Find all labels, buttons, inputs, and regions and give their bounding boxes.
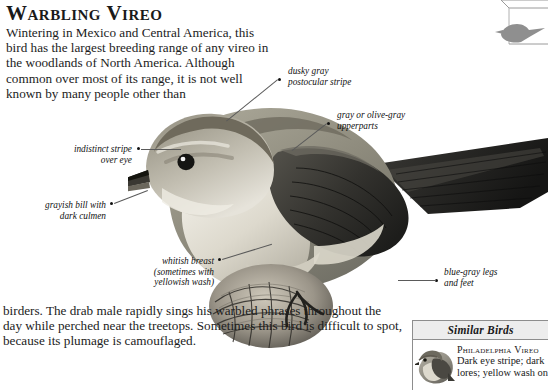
callout-eye-stripe: indistinct stripe over eye — [36, 144, 132, 165]
callout-bill: grayish bill with dark culmen — [10, 200, 106, 221]
outro-paragraph-text: birders. The drab male rapidly sings his… — [3, 303, 403, 349]
intro-paragraph-text: Wintering in Mexico and Central America,… — [6, 25, 274, 101]
philadelphia-vireo-thumbnail — [415, 343, 455, 389]
page-title: Warbling Vireo — [6, 2, 162, 24]
philadelphia-vireo-description: Dark eye stripe; dark lores; yellow wash… — [457, 355, 548, 378]
outro-paragraph: birders. The drab male rapidly sings his… — [3, 303, 403, 349]
callout-upperparts: gray or olive-gray upperparts — [337, 110, 405, 131]
leader-line-eye-stripe — [141, 149, 181, 150]
callout-dot-postocular-stripe — [278, 78, 281, 81]
scale-silhouette-inset — [487, 0, 548, 60]
similar-birds-entry: Philadelphia Vireo Dark eye stripe; dark… — [413, 340, 548, 389]
callout-breast: whitish breast (sometimes with yellowish… — [118, 256, 214, 288]
callout-postocular-stripe: dusky gray postocular stripe — [288, 66, 351, 87]
philadelphia-vireo-text: Philadelphia Vireo Dark eye stripe; dark… — [457, 343, 548, 389]
intro-paragraph: Wintering in Mexico and Central America,… — [6, 25, 274, 101]
philadelphia-vireo-name: Philadelphia Vireo — [457, 344, 548, 355]
similar-birds-title: Similar Birds — [413, 321, 548, 340]
leader-line-legs — [398, 280, 436, 281]
similar-birds-panel: Similar Birds — [412, 320, 548, 390]
callout-legs: blue-gray legs and feet — [444, 267, 497, 288]
